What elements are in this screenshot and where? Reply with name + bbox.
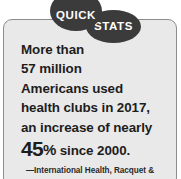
quick-stats-graphic: More than 57 million Americans used heal… (0, 0, 181, 179)
statement-highlight-line: 45% since 2000. (21, 138, 173, 161)
quick-stats-card: More than 57 million Americans used heal… (3, 19, 177, 179)
statement-line-1: More than (21, 40, 173, 59)
statement-line-2: 57 million (21, 59, 173, 78)
statement-line-4: health clubs in 2017, (21, 98, 173, 117)
source-attribution: —International Health, Racquet & (4, 166, 176, 176)
statistic-statement: More than 57 million Americans used heal… (21, 40, 173, 161)
highlight-number: 45 (21, 137, 43, 160)
statement-line-5: an increase of nearly (21, 118, 173, 137)
highlight-suffix: since 2000. (56, 143, 130, 158)
card-content: More than 57 million Americans used heal… (4, 20, 176, 179)
statement-line-3: Americans used (21, 79, 173, 98)
highlight-percent-sign: % (43, 141, 56, 158)
